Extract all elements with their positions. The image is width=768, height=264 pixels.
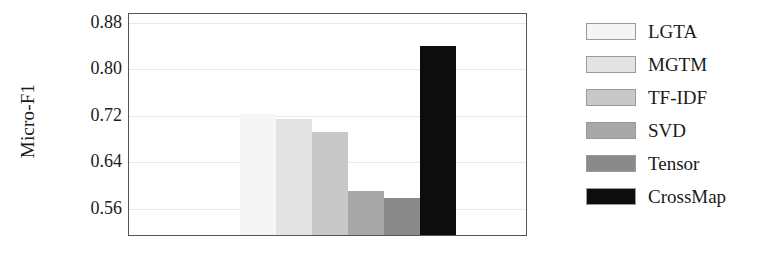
legend-item-crossmap: CrossMap <box>586 181 768 214</box>
legend-swatch <box>586 155 636 172</box>
legend-label: LGTA <box>648 16 697 47</box>
legend-label: CrossMap <box>648 181 726 212</box>
legend: LGTAMGTMTF-IDFSVDTensorCrossMap <box>586 16 768 214</box>
legend-item-mgtm: MGTM <box>586 49 768 82</box>
bar <box>348 191 384 235</box>
y-tick-label: 0.88 <box>66 13 122 31</box>
legend-label: SVD <box>648 115 686 146</box>
bar-chart-figure: Micro-F1 0.560.640.720.800.88 LGTAMGTMTF… <box>0 0 768 264</box>
bar-series <box>129 14 526 235</box>
y-tick-label: 0.56 <box>66 199 122 217</box>
legend-swatch <box>586 56 636 73</box>
bar <box>384 198 420 235</box>
legend-swatch <box>586 89 636 106</box>
legend-item-tf-idf: TF-IDF <box>586 82 768 115</box>
legend-label: MGTM <box>648 49 707 80</box>
legend-item-lgta: LGTA <box>586 16 768 49</box>
legend-label: Tensor <box>648 148 699 179</box>
plot-area <box>128 13 527 236</box>
y-axis-tick-labels: 0.560.640.720.800.88 <box>62 0 122 264</box>
bar <box>312 132 348 235</box>
y-axis-label: Micro-F1 <box>17 41 39 201</box>
bar <box>276 119 312 235</box>
bar <box>240 114 276 235</box>
legend-swatch <box>586 122 636 139</box>
legend-item-tensor: Tensor <box>586 148 768 181</box>
y-tick-label: 0.80 <box>66 59 122 77</box>
legend-item-svd: SVD <box>586 115 768 148</box>
legend-swatch <box>586 23 636 40</box>
bar <box>420 46 456 235</box>
legend-label: TF-IDF <box>648 82 707 113</box>
y-tick-label: 0.64 <box>66 152 122 170</box>
y-tick-label: 0.72 <box>66 106 122 124</box>
legend-swatch <box>586 188 636 205</box>
